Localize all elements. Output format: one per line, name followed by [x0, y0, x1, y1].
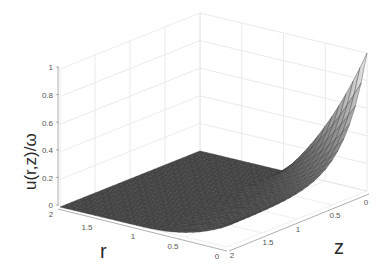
- u-tick-0.8: 0.8: [42, 91, 54, 100]
- z-tick-0.5: 0.5: [329, 211, 341, 220]
- surface-mesh: [60, 53, 367, 232]
- surface-plot: 1 0.8 0.6 0.4 0.2 0 2 1.5 1 0.5 0 2 1.5 …: [0, 0, 386, 276]
- u-tick-0.2: 0.2: [42, 174, 54, 183]
- u-tick-1: 1: [49, 63, 54, 72]
- r-tick-0.5: 0.5: [167, 242, 179, 251]
- u-tick-0.6: 0.6: [42, 119, 54, 128]
- surface-patch: [354, 53, 367, 94]
- r-tick-1: 1: [131, 232, 136, 241]
- z-tick-1.5: 1.5: [262, 238, 274, 247]
- r-tick-0: 0: [215, 252, 220, 261]
- r-axis-label: r: [100, 240, 107, 262]
- z-tick-2: 2: [230, 251, 235, 260]
- z-tick-1: 1: [296, 225, 301, 234]
- z-tick-0: 0: [364, 198, 369, 207]
- u-tick-0.4: 0.4: [42, 146, 54, 155]
- r-tick-2: 2: [49, 210, 54, 219]
- z-axis-label: z: [334, 236, 344, 258]
- u-axis-label: u(r,z)/ω: [21, 133, 40, 190]
- u-tick-0: 0: [49, 201, 54, 210]
- r-tick-1.5: 1.5: [81, 223, 93, 232]
